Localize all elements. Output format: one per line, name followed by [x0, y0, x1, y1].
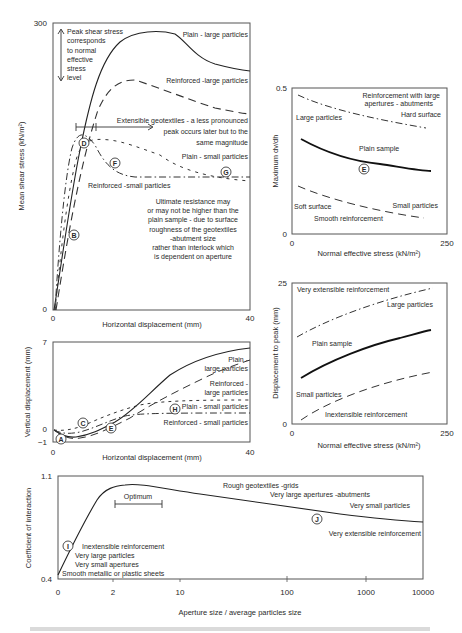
svg-text:I: I — [67, 543, 69, 550]
svg-text:Very extensible reinforcement: Very extensible reinforcement — [297, 286, 389, 294]
svg-text:F: F — [113, 160, 118, 167]
curve-plain-small — [55, 139, 250, 310]
x-tick-250: 250 — [440, 239, 454, 248]
extensible-note: Extensible geotextiles - a less pronounc… — [117, 117, 248, 147]
svg-text:Very large apertures -abutment: Very large apertures -abutments — [270, 491, 370, 499]
curve-reinforced-large — [56, 80, 250, 310]
svg-text:B: B — [71, 232, 76, 239]
peak-note: Peak shear stress corresponds to normal … — [67, 28, 124, 81]
svg-text:roughness of the geotextiles: roughness of the geotextiles — [149, 226, 237, 234]
svg-text:rather than interlock which: rather than interlock which — [152, 244, 234, 251]
chart-max-dilation: 0.5 0 0 250 Normal effective stress (kN/… — [271, 84, 454, 258]
svg-text:A: A — [58, 436, 63, 443]
svg-text:Very extensible reinforcement: Very extensible reinforcement — [329, 530, 421, 538]
chart-coefficient-of-interaction: 1.1 0.4 0 2 10 100 1000 10000 Aperture s… — [24, 472, 435, 617]
svg-text:Reinforced - small particles: Reinforced - small particles — [164, 419, 249, 427]
curve-plain-sample — [301, 330, 431, 378]
chart-displacement-to-peak: 25 0 0 250 Normal effective stress (kN/m… — [271, 279, 454, 450]
annotations: Rough geotextiles -grids Very large aper… — [62, 482, 421, 578]
svg-text:H: H — [172, 406, 177, 413]
svg-text:peak occurs later but to the: peak occurs later but to the — [164, 128, 249, 136]
x-tick-0: 0 — [290, 429, 295, 438]
svg-text:0: 0 — [56, 588, 61, 597]
svg-text:Large particles: Large particles — [296, 114, 342, 122]
svg-text:100: 100 — [280, 588, 294, 597]
svg-text:Inextensible reinforcement: Inextensible reinforcement — [82, 543, 164, 550]
y-axis-label: Vertical displacement (mm) — [23, 346, 32, 437]
label-reinforced-small: Reinforced -small particles — [88, 182, 171, 190]
annotations: Reinforcement with large apertures - abu… — [294, 92, 441, 222]
svg-text:Reinforced -: Reinforced - — [210, 380, 249, 387]
svg-text:10000: 10000 — [412, 588, 435, 597]
svg-text:large particles: large particles — [204, 389, 248, 397]
svg-text:large particles: large particles — [204, 365, 248, 373]
cut-off-caption — [30, 627, 430, 631]
y-axis-label: Mean shear stress (kN/m²) — [17, 121, 26, 210]
svg-text:Very large particles: Very large particles — [75, 552, 135, 560]
svg-text:Small particles: Small particles — [392, 202, 438, 210]
svg-text:Soft surface: Soft surface — [294, 203, 331, 210]
y-tick-0: 0 — [283, 230, 288, 239]
svg-text:G: G — [223, 169, 229, 176]
y-tick-300: 300 — [34, 19, 48, 28]
svg-text:Inextensible reinforcement: Inextensible reinforcement — [325, 411, 407, 418]
y-tick-0.5: 0.5 — [276, 84, 288, 93]
label-plain-large: Plain - large particles — [183, 31, 249, 39]
y-axis-label: Coefficient of interaction — [24, 488, 33, 568]
svg-text:Small particles: Small particles — [296, 391, 342, 399]
svg-text:level: level — [67, 74, 82, 81]
svg-text:Plain - small particles: Plain - small particles — [182, 403, 249, 411]
svg-text:C: C — [80, 420, 85, 427]
svg-text:plain sample - due to surface: plain sample - due to surface — [148, 216, 238, 224]
y-tick-7: 7 — [43, 338, 48, 347]
svg-text:Smooth reinforcement: Smooth reinforcement — [314, 215, 383, 222]
y-tick-1.1: 1.1 — [41, 472, 53, 481]
svg-text:Smooth metallic or plastic she: Smooth metallic or plastic sheets — [62, 570, 165, 578]
svg-text:Reinforcement with large: Reinforcement with large — [363, 92, 441, 100]
y-axis-label: Maximum dv/dh — [271, 135, 280, 188]
svg-text:J: J — [315, 516, 319, 523]
x-tick-250: 250 — [440, 429, 454, 438]
svg-text:Rough geotextiles -grids: Rough geotextiles -grids — [223, 482, 299, 490]
svg-text:-abutment size: -abutment size — [170, 235, 216, 242]
x-axis-label: Aperture size / average particles size — [179, 608, 302, 617]
annotations: Very extensible reinforcement Large part… — [296, 286, 433, 418]
svg-text:effective: effective — [67, 56, 93, 63]
svg-text:Hard surface: Hard surface — [401, 111, 441, 118]
x-axis-label: Normal effective stress (kN/m²) — [317, 249, 421, 258]
svg-text:Large particles: Large particles — [387, 301, 433, 309]
x-tick-0: 0 — [51, 314, 56, 323]
svg-text:is dependent on aperture: is dependent on aperture — [154, 253, 232, 261]
svg-text:corresponds: corresponds — [67, 37, 106, 45]
curve-large-particles — [297, 288, 433, 337]
chart-mean-shear-stress: 300 0 0 40 Horizontal displacement (mm) … — [17, 19, 255, 329]
svg-text:1000: 1000 — [357, 588, 375, 597]
ultimate-note: Ultimate resistance may or may not be hi… — [147, 198, 239, 261]
y-tick-0: 0 — [43, 425, 48, 434]
plot-frame — [292, 88, 447, 234]
y-tick-0: 0 — [43, 305, 48, 314]
y-tick-minus1: −1 — [38, 438, 48, 447]
svg-text:E: E — [109, 425, 114, 432]
y-tick-0.4: 0.4 — [41, 575, 53, 584]
svg-text:Plain sample: Plain sample — [312, 340, 352, 348]
svg-text:apertures - abutments: apertures - abutments — [365, 100, 434, 108]
svg-text:2: 2 — [111, 588, 116, 597]
figure: 300 0 0 40 Horizontal displacement (mm) … — [0, 0, 462, 633]
marker-E-label: E — [362, 166, 367, 173]
svg-text:10: 10 — [176, 588, 185, 597]
x-tick-40: 40 — [246, 314, 255, 323]
svg-text:same magnitude: same magnitude — [196, 139, 248, 147]
svg-text:or may not be higher than the: or may not be higher than the — [147, 207, 239, 215]
label-plain-small: Plain - small particles — [182, 153, 249, 161]
svg-text:Plain sample: Plain sample — [359, 145, 399, 153]
svg-text:stress: stress — [67, 65, 86, 72]
y-tick-25: 25 — [278, 279, 287, 288]
curve-plain-large — [54, 32, 250, 310]
y-tick-0: 0 — [283, 420, 288, 429]
x-axis-label: Horizontal displacement (mm) — [102, 453, 202, 462]
svg-text:to normal: to normal — [67, 47, 97, 54]
label-optimum: Optimum — [124, 493, 153, 501]
svg-text:Very small apertures: Very small apertures — [75, 561, 139, 569]
label-reinforced-large: Reinforced -large particles — [166, 77, 248, 85]
